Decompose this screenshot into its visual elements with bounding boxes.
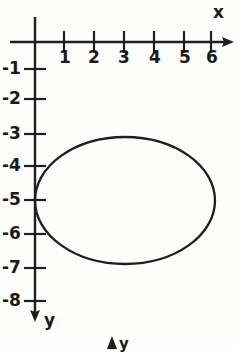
x-tick-label-5: 5 [179,49,191,66]
y-tick-label-minus2: -2 [2,90,21,107]
x-tick-label-1: 1 [59,49,71,66]
y-axis-label: y [44,312,55,329]
x-tick-label-3: 3 [118,49,130,66]
x-axis-label: x [213,4,224,21]
y-tick-label-minus1: -1 [2,60,21,77]
x-tick-label-6: 6 [206,49,218,66]
y-tick-label-minus7: -7 [2,259,21,276]
y-tick-label-minus3: -3 [2,125,21,142]
bottom-fragment-arrowhead [107,336,117,349]
x-axis-group [10,37,234,47]
y-tick-label-minus4: -4 [2,157,21,174]
x-tick-label-2: 2 [88,49,100,66]
y-tick-label-minus8: -8 [2,292,21,309]
x-tick-label-4: 4 [149,49,161,66]
bottom-fragment-label: y [119,335,129,353]
y-tick-label-minus5: -5 [2,191,21,208]
y-tick-label-minus6: -6 [2,225,21,242]
ellipse-curve [35,137,215,264]
y-axis-group [30,17,40,322]
